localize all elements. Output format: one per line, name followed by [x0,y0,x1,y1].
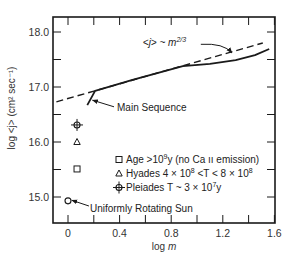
data-points [65,119,83,204]
square-marker-icon [116,157,122,163]
main-sequence-curve [87,49,269,105]
y-axis-label: log <j> (cm² sec⁻¹) [6,67,17,150]
legend-entry-text: Age >109y (no Ca ıı emission) [126,153,259,165]
power-law-arrow [201,44,232,53]
x-tick-label: 1.6 [267,227,282,239]
diamond-cross-marker-icon [113,182,125,194]
y-tick-label: 17.0 [29,81,50,93]
x-axis-label: log m [152,241,176,252]
x-tick-label: 0.8 [164,227,179,239]
x-tick-label: 1.2 [215,227,230,239]
y-tick-label: 16.0 [29,136,50,148]
angular-momentum-chart: 00.40.81.21.615.016.017.018.0 <j> ~ m2/3… [0,0,292,261]
x-tick-label: 0.4 [112,227,127,239]
y-tick-label: 15.0 [29,191,50,203]
legend-entry-text: Hyades 4 × 108 <T < 8 × 108 [126,167,253,179]
power-law-label: <j> ~ m2/3 [143,36,186,48]
x-tick-label: 0 [65,227,71,239]
main-sequence-label: Main Sequence [117,102,187,113]
main-sequence-arrow [93,100,115,107]
sun-arrow [72,200,89,206]
square-marker-icon [74,166,80,172]
data-series [56,43,269,105]
triangle-marker-icon [74,139,80,145]
legend: Age >109y (no Ca ıı emission)Hyades 4 × … [113,153,259,194]
y-tick-label: 18.0 [29,26,50,38]
circle-marker-icon [65,198,71,204]
diamond-cross-marker-icon [71,119,83,131]
legend-entry-text: Pleiades T ~ 3 × 107y [126,181,221,193]
uniformly-rotating-sun-label: Uniformly Rotating Sun [90,203,193,214]
triangle-marker-icon [116,170,122,176]
